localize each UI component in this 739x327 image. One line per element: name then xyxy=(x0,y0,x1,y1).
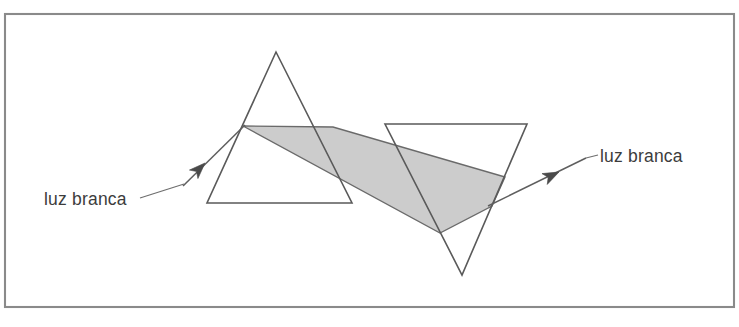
label-luz-branca-left: luz branca xyxy=(44,189,127,209)
incident-ray-arrow-icon xyxy=(189,159,209,179)
incident-ray-line xyxy=(183,125,245,186)
dispersed-beam-band xyxy=(243,126,505,233)
label-luz-branca-right: luz branca xyxy=(600,146,683,166)
leader-line-right xyxy=(586,155,598,158)
figure-container: luz branca luz branca xyxy=(0,0,739,327)
emergent-ray-arrow-icon xyxy=(542,167,562,185)
optics-prism-diagram: luz branca luz branca xyxy=(0,0,739,327)
leader-line-left xyxy=(140,184,184,198)
